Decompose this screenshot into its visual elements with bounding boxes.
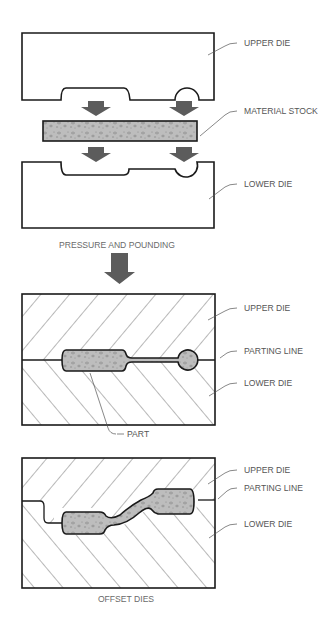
label-parting-line-2: PARTING LINE: [244, 346, 303, 356]
down-arrow-1c: [81, 147, 111, 162]
label-material-stock: MATERIAL STOCK: [244, 106, 318, 116]
panel-offset-dies: UPPER DIE PARTING LINE LOWER DIE OFFSET …: [22, 458, 303, 604]
leader-parting-line-3: [218, 488, 237, 499]
panel-separated-dies: UPPER DIE MATERIAL STOCK LOWER DIE PRESS…: [22, 33, 318, 284]
material-stock: [43, 121, 197, 141]
panel-closed-dies: UPPER DIE PARTING LINE LOWER DIE PART: [22, 294, 303, 439]
leader-upper-die-1: [208, 43, 237, 55]
leader-material-stock: [200, 111, 237, 136]
label-parting-line-3: PARTING LINE: [244, 483, 303, 493]
leader-parting-line-2: [220, 351, 237, 358]
caption-offset-dies: OFFSET DIES: [98, 594, 154, 604]
label-lower-die-3: LOWER DIE: [244, 519, 292, 529]
label-upper-die-2: UPPER DIE: [244, 303, 291, 313]
big-down-arrow: [104, 253, 135, 284]
forging-diagram: UPPER DIE MATERIAL STOCK LOWER DIE PRESS…: [0, 0, 335, 628]
label-lower-die-2: LOWER DIE: [244, 378, 292, 388]
upper-die-1: [22, 33, 214, 100]
label-lower-die-1: LOWER DIE: [244, 179, 292, 189]
down-arrow-1b: [169, 101, 199, 116]
label-upper-die-3: UPPER DIE: [244, 465, 291, 475]
caption-pressure-and-pounding: PRESSURE AND POUNDING: [59, 240, 175, 250]
down-arrow-1a: [81, 101, 111, 116]
label-upper-die-1: UPPER DIE: [244, 38, 291, 48]
lower-die-1: [22, 162, 214, 228]
label-part: PART: [127, 429, 150, 439]
down-arrow-1d: [169, 147, 199, 162]
